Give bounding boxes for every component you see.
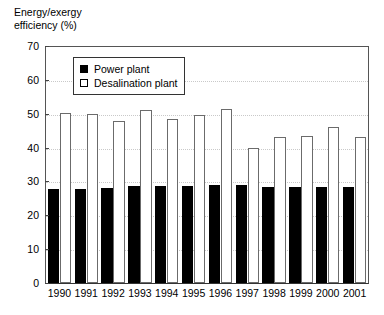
x-tick-label-1991: 1991 [73, 288, 100, 299]
x-tick-label-2001: 2001 [341, 288, 368, 299]
legend-item-label: Desalination plant [94, 78, 177, 89]
filled-square-icon [80, 65, 88, 73]
y-tick-label-50: 50 [0, 109, 39, 120]
y-tick-label-70: 70 [0, 41, 39, 52]
legend-item-power-plant: Power plant [80, 62, 177, 76]
chart-legend: Power plant Desalination plant [73, 57, 185, 95]
x-tick-label-1992: 1992 [100, 288, 127, 299]
x-tick-label-1995: 1995 [180, 288, 207, 299]
legend-item-desalination-plant: Desalination plant [80, 76, 177, 90]
legend-item-label: Power plant [94, 64, 149, 75]
x-axis-tick-labels: 1990199119921993199419951996199719981999… [46, 288, 368, 304]
y-axis-tick-labels: 010203040506070 [0, 46, 384, 284]
x-tick-label-1996: 1996 [207, 288, 234, 299]
y-tick-label-30: 30 [0, 176, 39, 187]
x-tick-label-1994: 1994 [153, 288, 180, 299]
x-tick-label-2000: 2000 [314, 288, 341, 299]
y-tick-label-20: 20 [0, 210, 39, 221]
y-tick-label-40: 40 [0, 143, 39, 154]
y-tick-label-60: 60 [0, 75, 39, 86]
x-tick-label-1998: 1998 [261, 288, 288, 299]
y-tick-label-0: 0 [0, 278, 39, 289]
x-tick-label-1999: 1999 [288, 288, 315, 299]
y-axis-title: Energy/exergy efficiency (%) [14, 6, 82, 32]
y-tick-label-10: 10 [0, 244, 39, 255]
x-tick-label-1997: 1997 [234, 288, 261, 299]
x-tick-label-1990: 1990 [46, 288, 73, 299]
x-tick-label-1993: 1993 [127, 288, 154, 299]
open-square-icon [80, 79, 88, 87]
